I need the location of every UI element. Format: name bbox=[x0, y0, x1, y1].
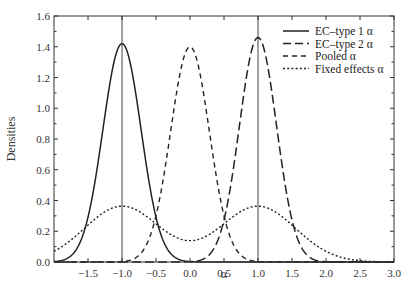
series-line-3 bbox=[54, 206, 394, 262]
y-tick-label: 0.0 bbox=[36, 256, 50, 268]
legend-label-2: Pooled α bbox=[315, 50, 356, 62]
x-axis-title: α bbox=[221, 267, 228, 281]
y-tick-label: 0.4 bbox=[36, 195, 50, 207]
x-tick-label: 2.0 bbox=[319, 267, 333, 279]
legend-label-0: EC–type 1 α bbox=[315, 25, 373, 38]
legend-label-3: Fixed effects α bbox=[315, 63, 383, 75]
legend: EC–type 1 αEC–type 2 αPooled αFixed effe… bbox=[283, 25, 383, 75]
legend-label-1: EC–type 2 α bbox=[315, 38, 373, 51]
series-line-0 bbox=[54, 44, 394, 262]
x-tick-label: 0.0 bbox=[183, 267, 197, 279]
y-tick-label: 0.8 bbox=[36, 133, 50, 145]
y-axis-title: Densities bbox=[4, 116, 18, 161]
y-tick-label: 1.2 bbox=[36, 72, 50, 84]
x-tick-label: 2.5 bbox=[353, 267, 367, 279]
density-chart: −1.5−1.0−0.50.00.51.01.52.02.53.00.00.20… bbox=[0, 0, 413, 282]
y-tick-label: 1.4 bbox=[36, 41, 50, 53]
x-tick-label: 1.0 bbox=[251, 267, 265, 279]
y-tick-label: 1.0 bbox=[36, 102, 50, 114]
x-tick-label: 1.5 bbox=[285, 267, 299, 279]
x-tick-label: −1.5 bbox=[78, 267, 98, 279]
y-tick-label: 0.2 bbox=[36, 225, 50, 237]
x-tick-label: −0.5 bbox=[146, 267, 166, 279]
y-tick-label: 1.6 bbox=[36, 10, 50, 22]
x-tick-label: −1.0 bbox=[112, 267, 132, 279]
y-tick-label: 0.6 bbox=[36, 164, 50, 176]
series-line-2 bbox=[54, 47, 394, 262]
x-tick-label: 3.0 bbox=[387, 267, 401, 279]
